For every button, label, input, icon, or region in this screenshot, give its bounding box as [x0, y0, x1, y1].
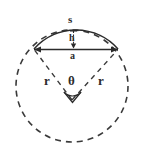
- radius-right-label: r: [98, 74, 104, 87]
- segment-height-label: h: [69, 33, 75, 43]
- radius-left-label: r: [44, 74, 50, 87]
- circle-segment-figure: s h a r r θ: [0, 0, 146, 158]
- sagitta-arrow: [71, 44, 76, 49]
- chord-label: a: [70, 51, 75, 61]
- angle-vertex-wedge: [64, 92, 81, 103]
- radius-right-line: [72, 50, 118, 100]
- arc-length-label: s: [68, 14, 72, 25]
- angle-theta-label: θ: [68, 74, 75, 87]
- radius-left-line: [35, 50, 73, 100]
- segment-arc: [34, 30, 118, 49]
